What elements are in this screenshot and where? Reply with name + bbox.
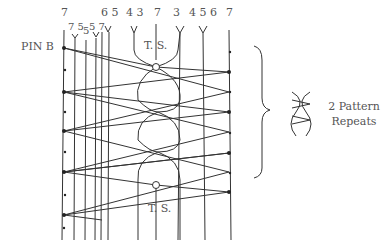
loop-bottom-left bbox=[138, 152, 158, 240]
thread-7 bbox=[74, 38, 75, 240]
y-hook bbox=[176, 26, 184, 33]
trailing-pair bbox=[64, 215, 102, 220]
thread-number-label: 4 5 6 bbox=[189, 7, 217, 18]
thread-number-label: 3 bbox=[173, 7, 180, 18]
pattern-repeats-label: 2 Pattern Repeats bbox=[318, 99, 387, 129]
brace bbox=[254, 46, 270, 178]
thread-number-label: 7 5 bbox=[68, 22, 84, 32]
zigzag-b bbox=[64, 72, 229, 112]
y-hook bbox=[72, 34, 78, 38]
y-hook bbox=[199, 26, 207, 33]
repeats-line-1: 2 Pattern bbox=[318, 99, 387, 114]
ts-label-bottom: T. S. bbox=[148, 203, 171, 214]
thread-number-label: 7 bbox=[226, 7, 233, 18]
loop-bottom-right bbox=[158, 152, 180, 240]
thread-number-label: 6 5 bbox=[101, 7, 119, 18]
ts-label-top: T. S. bbox=[144, 40, 167, 51]
center-pin-top bbox=[153, 64, 160, 71]
y-hook bbox=[93, 32, 99, 37]
thread-456 bbox=[203, 33, 205, 240]
pin-b-label: PIN B bbox=[21, 41, 54, 52]
thread-number-label: 5 7 bbox=[89, 22, 105, 32]
pattern-repeat-icon bbox=[291, 92, 311, 136]
thread-number-label: 7 bbox=[61, 7, 68, 18]
repeats-line-2: Repeats bbox=[318, 114, 387, 129]
thread-number-label: 7 bbox=[154, 7, 161, 18]
thread-7b bbox=[101, 32, 102, 240]
thread-left-edge bbox=[62, 30, 64, 240]
y-hook bbox=[105, 26, 111, 32]
thread-right-edge bbox=[229, 30, 231, 240]
center-pin-bottom bbox=[153, 182, 160, 189]
thread-number-label: 4 3 bbox=[126, 7, 144, 18]
y-hook bbox=[131, 26, 137, 33]
